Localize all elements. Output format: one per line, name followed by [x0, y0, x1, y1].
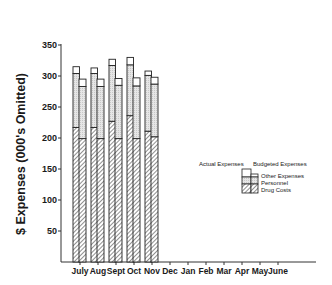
expenses-chart: 50100150200250300350 JulyAugSeptOctNovDe…: [0, 0, 332, 285]
bar-budgeted-personnel: [133, 86, 140, 139]
legend-swatch-actual-other: [242, 169, 251, 177]
bar-actual-drug-costs: [145, 131, 152, 262]
bar-actual-other-expenses: [127, 57, 134, 64]
x-tick-label: Mar: [216, 266, 232, 276]
bar-budgeted-drug-costs: [133, 139, 140, 262]
y-tick-label: 350: [42, 40, 57, 50]
bar-actual-personnel: [109, 65, 116, 121]
x-tick-label: Nov: [144, 266, 160, 276]
legend-label-personnel: Personnel: [261, 180, 288, 186]
bar-budgeted-drug-costs: [79, 139, 86, 262]
bar-budgeted-drug-costs: [115, 139, 122, 262]
y-tick-label: 150: [42, 164, 57, 174]
y-tick-label: 200: [42, 133, 57, 143]
legend-swatch-budgeted-other: [251, 174, 258, 177]
legend-header-actual: Actual Expenses: [199, 161, 244, 167]
y-tick-label: 100: [42, 195, 57, 205]
bar-budgeted-other-expenses: [133, 78, 140, 86]
y-tick-label: 250: [42, 102, 57, 112]
y-tick-label: 50: [47, 226, 57, 236]
bar-budgeted-personnel: [79, 87, 86, 139]
bar-budgeted-personnel: [151, 84, 158, 137]
x-tick-label: May: [252, 266, 269, 276]
bar-actual-personnel: [73, 74, 80, 128]
legend-swatch-budgeted-drug: [251, 184, 258, 193]
bar-actual-drug-costs: [109, 121, 116, 262]
bar-actual-other-expenses: [73, 67, 80, 74]
x-tick-label: Sept: [107, 266, 126, 276]
bar-actual-personnel: [91, 74, 98, 128]
legend-label-drug-costs: Drug Costs: [261, 187, 291, 193]
legend-swatch-budgeted-personnel: [251, 177, 258, 184]
legend-header-budgeted: Budgeted Expenses: [253, 161, 307, 167]
bar-budgeted-personnel: [97, 87, 104, 139]
bar-budgeted-drug-costs: [151, 137, 158, 262]
bar-actual-other-expenses: [145, 71, 152, 75]
bar-actual-drug-costs: [127, 116, 134, 262]
x-tick-label: Oct: [127, 266, 141, 276]
bar-budgeted-drug-costs: [97, 139, 104, 262]
bar-actual-drug-costs: [73, 127, 80, 262]
legend-label-other-expenses: Other Expenses: [261, 173, 304, 179]
x-tick-label: Apr: [235, 266, 250, 276]
x-tick-label: Feb: [198, 266, 213, 276]
bar-budgeted-personnel: [115, 85, 122, 138]
bar-budgeted-other-expenses: [151, 77, 158, 84]
bar-actual-personnel: [145, 75, 152, 131]
x-tick-label: Aug: [90, 266, 107, 276]
bar-actual-drug-costs: [91, 127, 98, 262]
legend-swatch-actual-personnel: [242, 177, 251, 184]
x-tick-label: June: [268, 266, 288, 276]
bar-actual-other-expenses: [91, 68, 98, 74]
legend: Actual Expenses Budgeted Expenses Other …: [199, 161, 307, 193]
bar-budgeted-other-expenses: [79, 79, 86, 86]
x-tick-label: Jan: [181, 266, 196, 276]
bar-actual-personnel: [127, 65, 134, 116]
bar-budgeted-other-expenses: [115, 78, 122, 85]
x-tick-label: Dec: [162, 266, 178, 276]
bar-budgeted-other-expenses: [97, 79, 104, 86]
bar-actual-other-expenses: [109, 59, 116, 65]
legend-swatch-actual-drug: [242, 184, 251, 193]
y-axis-label: $ Expenses (000's Omitted): [14, 73, 28, 235]
x-tick-label: July: [71, 266, 88, 276]
y-tick-label: 300: [42, 71, 57, 81]
